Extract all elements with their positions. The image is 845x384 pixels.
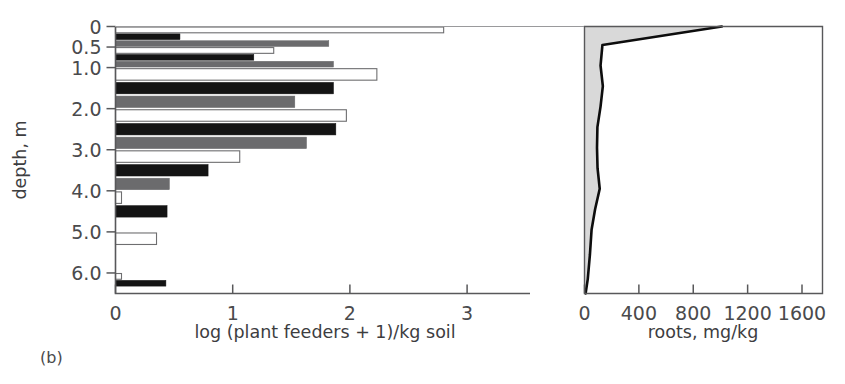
left-y-tick-label: 0.5	[71, 36, 101, 58]
bar-black	[116, 206, 168, 218]
bar-gray	[116, 137, 307, 149]
left-y-tick-label: 2.0	[71, 98, 101, 120]
left-x-axis-title: log (plant feeders + 1)/kg soil	[194, 322, 455, 342]
bar-gray	[116, 96, 295, 108]
bar-open	[116, 48, 274, 54]
bar-open	[116, 192, 122, 204]
right-x-tick-label: 1200	[723, 302, 771, 324]
left-x-tick-label: 1	[227, 302, 239, 324]
bar-black	[116, 123, 336, 135]
bar-open	[116, 69, 377, 81]
bar-gray	[116, 61, 334, 67]
right-x-tick-label: 800	[675, 302, 711, 324]
left-y-tick-label: 0	[89, 16, 101, 38]
left-x-tick-label: 2	[344, 302, 356, 324]
bar-open	[116, 27, 444, 33]
bar-black	[116, 82, 334, 94]
left-y-tick-label: 1.0	[71, 57, 101, 79]
bar-open	[116, 233, 157, 245]
left-x-tick-label: 3	[461, 302, 473, 324]
bar-black	[116, 165, 209, 177]
right-x-tick-label: 0	[578, 302, 590, 324]
bar-open	[116, 274, 122, 280]
panel-label: (b)	[40, 348, 63, 367]
figure-svg: 00.51.02.03.04.05.06.0 0123 log (plant f…	[0, 0, 845, 384]
bar-black	[116, 280, 166, 286]
left-y-tick-label: 5.0	[71, 221, 101, 243]
right-x-tick-label: 1600	[778, 302, 826, 324]
bar-open	[116, 151, 240, 163]
bar-gray	[116, 41, 329, 47]
left-y-tick-label: 3.0	[71, 139, 101, 161]
left-y-tick-label: 6.0	[71, 262, 101, 284]
figure-container: 00.51.02.03.04.05.06.0 0123 log (plant f…	[0, 0, 845, 384]
right-x-tick-label: 400	[621, 302, 657, 324]
bar-open	[116, 110, 347, 122]
left-y-tick-label: 4.0	[71, 180, 101, 202]
bar-gray	[116, 178, 170, 190]
right-x-axis-title: roots, mg/kg	[648, 322, 759, 342]
left-x-tick-label: 0	[109, 302, 121, 324]
left-y-axis-title: depth, m	[10, 120, 30, 199]
bar-black	[116, 54, 254, 60]
bar-black	[116, 34, 180, 40]
